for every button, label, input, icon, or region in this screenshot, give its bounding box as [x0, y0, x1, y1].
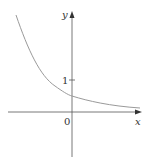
exponential-curve	[16, 15, 140, 108]
x-axis-arrow-icon	[135, 110, 142, 115]
x-axis-label: x	[135, 116, 141, 127]
y-axis-label: y	[61, 9, 68, 20]
y-tick-one-label: 1	[62, 75, 68, 86]
origin-label: 0	[64, 116, 70, 127]
graph-figure: y x 0 1	[0, 0, 150, 163]
y-axis-arrow-icon	[70, 11, 75, 18]
